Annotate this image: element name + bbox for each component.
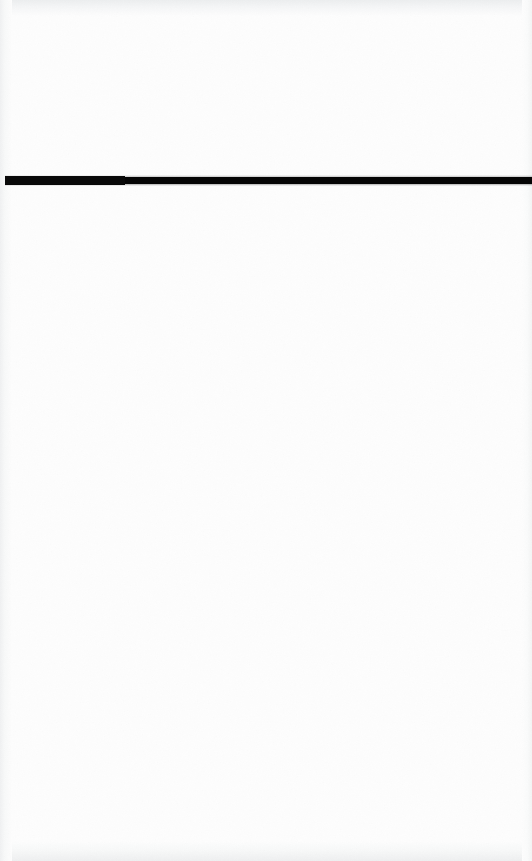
scanned-page [0,0,532,861]
horizontal-rule [5,177,532,184]
content-region-above-rule [0,0,532,177]
content-region-below-rule [0,184,532,861]
rule-line [5,177,532,184]
